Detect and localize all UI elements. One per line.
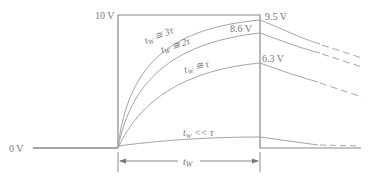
- decay-3tau: [260, 20, 320, 44]
- decay-2tau: [260, 33, 320, 53]
- arrow-right-icon: [252, 159, 259, 164]
- arrow-left-icon: [119, 159, 126, 164]
- decay-tau-dashed: [320, 83, 362, 97]
- label-tw-tau: tW ≅ τ: [183, 58, 211, 77]
- svg-text:tW ≅ τ: tW ≅ τ: [183, 58, 211, 77]
- label-8.6v: 8.6 V: [230, 23, 253, 34]
- label-0v: 0 V: [9, 143, 24, 154]
- label-9.5v: 9.5 V: [265, 11, 288, 22]
- rc-integrator-diagram: 10 V 0 V 9.5 V 8.6 V 6.3 V tW ≅ 3τ tW ≅ …: [0, 0, 374, 185]
- curve-2tau: [118, 33, 260, 148]
- label-10v: 10 V: [95, 10, 115, 21]
- decay-small-tw-dashed: [320, 145, 360, 146]
- label-tw-width: tW: [183, 156, 194, 169]
- decay-tau: [260, 63, 318, 82]
- label-6.3v: 6.3 V: [262, 53, 285, 64]
- decay-small-tw: [260, 137, 318, 145]
